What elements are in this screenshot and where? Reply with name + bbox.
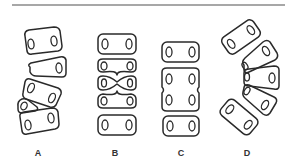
panel-d-figure (218, 18, 279, 137)
vertebra-a5 (20, 108, 59, 134)
vertebra-d1 (220, 18, 263, 56)
vertebra-b2 (98, 59, 136, 75)
panel-label-d: D (237, 148, 257, 158)
panel-c-figure (162, 42, 199, 136)
vertebra-b1 (98, 34, 136, 54)
vertebra-a2-wedge (29, 57, 66, 77)
vertebra-c1 (162, 42, 199, 62)
panel-a-figure (18, 27, 66, 134)
vertebrae-diagram (0, 0, 298, 168)
vertebra-b3-butterfly (98, 76, 136, 90)
vertebra-a1 (25, 27, 62, 54)
panel-b-figure (98, 34, 136, 135)
vertebra-c3 (163, 116, 199, 136)
vertebra-d5 (218, 97, 260, 137)
vertebra-c2-fused-block (162, 68, 199, 111)
panel-label-a: A (28, 148, 48, 158)
panel-label-b: B (105, 148, 125, 158)
vertebra-b5 (98, 115, 136, 135)
panel-label-c: C (171, 148, 191, 158)
vertebra-a3 (23, 79, 61, 107)
vertebra-b4 (98, 91, 136, 108)
